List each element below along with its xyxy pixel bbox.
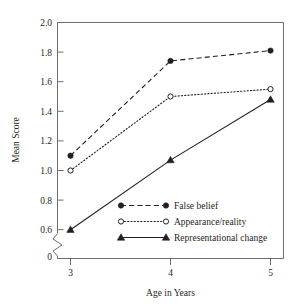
chart-canvas: 2.0 1.8 1.6 1.4 1.2 1.0 0.8 0.6 0 3 4 5 …	[0, 0, 301, 308]
legend-marker-start-appearance-reality	[118, 219, 123, 224]
representational-change-point-age5	[267, 96, 274, 102]
legend-label-false-belief: False belief	[174, 201, 219, 211]
y-tick-marks	[58, 23, 64, 230]
x-tick-marks	[71, 259, 271, 266]
representational-change-line	[71, 100, 271, 230]
legend-marker-end-false-belief	[163, 203, 168, 208]
y-tick-label-0: 0	[47, 252, 52, 262]
y-tick-label-1.4: 1.4	[40, 107, 52, 117]
y-tick-label-2.0: 2.0	[40, 18, 52, 28]
false-belief-point-age5	[268, 48, 273, 53]
y-tick-label-0.8: 0.8	[40, 196, 52, 206]
false-belief-line	[71, 51, 271, 156]
x-tick-label-3: 3	[68, 268, 73, 278]
y-axis-title: Mean Score	[11, 117, 21, 163]
legend-item-representational-change: Representational change	[117, 233, 267, 243]
y-tick-label-0.6: 0.6	[40, 225, 52, 235]
representational-change-point-age4	[167, 156, 174, 162]
y-tick-labels: 2.0 1.8 1.6 1.4 1.2 1.0 0.8 0.6 0	[40, 18, 52, 262]
chart-legend: False belief Appearance/reality Represen…	[117, 201, 267, 243]
false-belief-point-age3	[68, 153, 73, 158]
appearance-reality-point-age4	[168, 94, 173, 99]
legend-marker-end-appearance-reality	[163, 219, 168, 224]
series-false-belief	[68, 48, 273, 159]
legend-marker-start-false-belief	[118, 203, 123, 208]
legend-item-false-belief: False belief	[118, 201, 219, 211]
x-tick-label-4: 4	[168, 268, 173, 278]
y-tick-label-1.6: 1.6	[40, 77, 52, 87]
line-chart: 2.0 1.8 1.6 1.4 1.2 1.0 0.8 0.6 0 3 4 5 …	[0, 0, 301, 308]
series-representational-change	[67, 96, 274, 233]
legend-item-appearance-reality: Appearance/reality	[118, 217, 246, 227]
y-axis-break-icon	[53, 234, 62, 257]
representational-change-point-age3	[67, 226, 74, 232]
y-tick-label-1.0: 1.0	[40, 166, 52, 176]
x-tick-label-5: 5	[268, 268, 273, 278]
legend-label-appearance-reality: Appearance/reality	[174, 217, 247, 227]
appearance-reality-point-age3	[68, 168, 73, 173]
y-tick-label-1.8: 1.8	[40, 48, 52, 58]
x-tick-labels: 3 4 5	[68, 268, 273, 278]
legend-label-representational-change: Representational change	[174, 233, 267, 243]
appearance-reality-point-age5	[268, 87, 273, 92]
false-belief-point-age4	[168, 58, 173, 63]
x-axis-title: Age in Years	[146, 288, 195, 298]
y-tick-label-1.2: 1.2	[40, 136, 52, 146]
